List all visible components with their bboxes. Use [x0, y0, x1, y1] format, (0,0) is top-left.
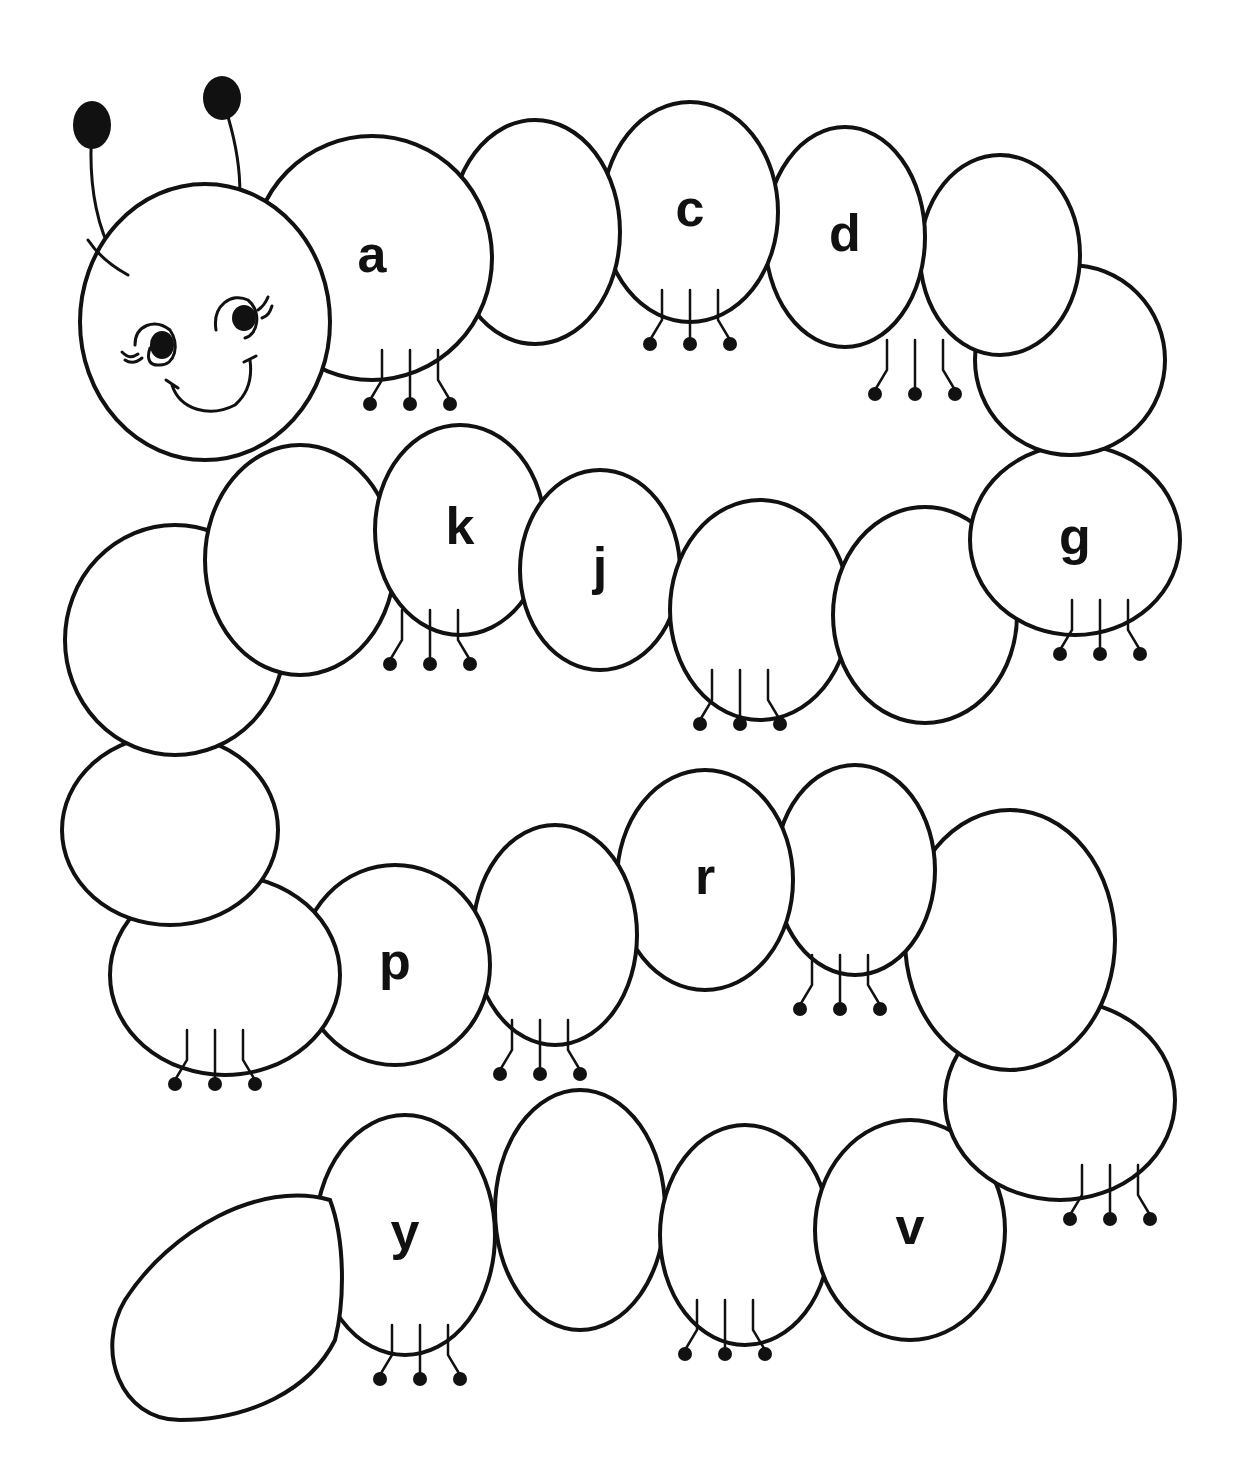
segment-letter-k: k [446, 497, 475, 555]
segment-letter-a: a [358, 225, 388, 283]
foot [723, 337, 737, 351]
foot [1053, 647, 1067, 661]
foot [208, 1077, 222, 1091]
foot [868, 387, 882, 401]
segment-s[interactable] [775, 765, 935, 975]
leg [943, 340, 955, 390]
segment-n[interactable] [62, 735, 278, 925]
leg [800, 955, 812, 1005]
foot [643, 337, 657, 351]
foot [453, 1372, 467, 1386]
leg [875, 340, 887, 390]
foot [733, 717, 747, 731]
leg [390, 610, 402, 660]
foot [463, 657, 477, 671]
foot [443, 397, 457, 411]
foot [873, 1002, 887, 1016]
foot [373, 1372, 387, 1386]
foot [908, 387, 922, 401]
foot [678, 1347, 692, 1361]
foot [413, 1372, 427, 1386]
foot [1093, 647, 1107, 661]
foot [1103, 1212, 1117, 1226]
segment-e[interactable] [920, 155, 1080, 355]
segment-letter-p: p [379, 932, 411, 990]
eye-left-pupil [150, 331, 174, 359]
segment-letter-j: j [592, 537, 607, 595]
foot [423, 657, 437, 671]
foot [758, 1347, 772, 1361]
antenna-bulb-right [203, 76, 241, 120]
segment-l[interactable] [205, 445, 395, 675]
foot [573, 1067, 587, 1081]
caterpillar-drawing: acdgjkprvy [0, 0, 1248, 1470]
foot [718, 1347, 732, 1361]
segment-x[interactable] [495, 1090, 665, 1330]
foot [1133, 647, 1147, 661]
foot [683, 337, 697, 351]
tail-segment[interactable] [112, 1196, 342, 1420]
segment-letter-y: y [391, 1202, 420, 1260]
foot [948, 387, 962, 401]
eye-right-pupil [232, 305, 256, 331]
foot [383, 657, 397, 671]
foot [403, 397, 417, 411]
foot [533, 1067, 547, 1081]
foot [1143, 1212, 1157, 1226]
foot [168, 1077, 182, 1091]
foot [363, 397, 377, 411]
foot [493, 1067, 507, 1081]
antenna-bulb-left [73, 101, 111, 149]
segment-letter-d: d [829, 204, 861, 262]
foot [693, 717, 707, 731]
head [73, 76, 330, 460]
foot [773, 717, 787, 731]
foot [1063, 1212, 1077, 1226]
segment-letter-v: v [896, 1197, 925, 1255]
segment-letter-r: r [695, 847, 715, 905]
segment-i[interactable] [670, 500, 850, 720]
segment-letter-c: c [676, 179, 705, 237]
foot [833, 1002, 847, 1016]
segment-t[interactable] [905, 810, 1115, 1070]
segment-letter-g: g [1059, 507, 1091, 565]
segment-w[interactable] [660, 1125, 830, 1345]
foot [248, 1077, 262, 1091]
head-circle [80, 184, 330, 460]
foot [793, 1002, 807, 1016]
segment-q[interactable] [473, 825, 637, 1045]
